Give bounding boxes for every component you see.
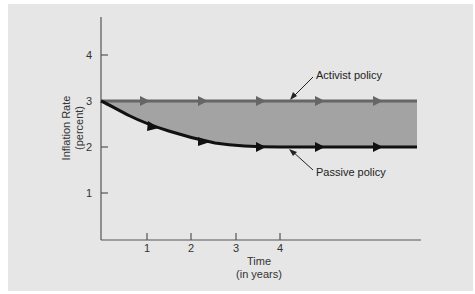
- x-axis-subtitle: (in years): [236, 268, 282, 280]
- y-tick-label-3: 3: [86, 95, 92, 107]
- activist-policy-label: Activist policy: [316, 69, 383, 81]
- x-tick-label-3: 3: [233, 242, 239, 254]
- activist-annotation-pointer: [293, 77, 313, 97]
- y-tick-label-2: 2: [86, 141, 92, 153]
- y-axis-subtitle: (percent): [73, 106, 85, 150]
- y-tick-label-4: 4: [86, 49, 92, 61]
- inflation-policy-chart: 4 3 2 1 1 2 3 4 Inflation Rate (percent)…: [0, 0, 475, 294]
- x-ticks: [147, 233, 280, 240]
- y-axis-title: Inflation Rate: [60, 96, 72, 161]
- y-ticks: [101, 55, 108, 193]
- y-tick-label-1: 1: [86, 187, 92, 199]
- passive-policy-label: Passive policy: [316, 166, 386, 178]
- x-tick-label-2: 2: [188, 242, 194, 254]
- x-axis-title: Time: [247, 255, 271, 267]
- x-tick-label-1: 1: [144, 242, 150, 254]
- x-tick-label-4: 4: [277, 242, 283, 254]
- activist-annotation-arrowhead-icon: [290, 92, 297, 100]
